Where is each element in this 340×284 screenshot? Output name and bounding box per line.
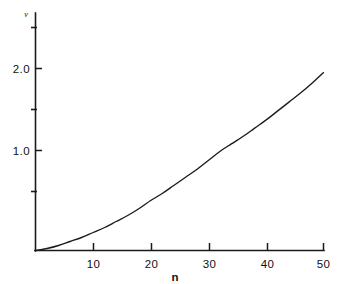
x-tick-label-20: 20	[145, 258, 159, 270]
x-tick-label-30: 30	[203, 258, 217, 270]
y-tick-label-2.0: 2.0	[13, 63, 30, 75]
line-chart: 2.0 1.0 10 20 30 40 50 n ν	[0, 0, 340, 284]
y-axis-title: ν	[24, 10, 28, 19]
y-tick-label-1.0: 1.0	[13, 145, 30, 157]
x-tick-label-10: 10	[87, 258, 101, 270]
x-tick-label-40: 40	[261, 258, 275, 270]
chart-background	[0, 0, 340, 284]
chart-figure: 2.0 1.0 10 20 30 40 50 n ν	[0, 0, 340, 284]
x-axis-title: n	[171, 271, 178, 283]
x-tick-label-50: 50	[317, 258, 331, 270]
